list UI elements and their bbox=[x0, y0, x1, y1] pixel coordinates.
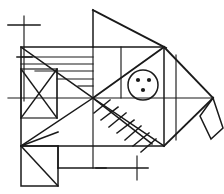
hatched-spine bbox=[93, 98, 156, 152]
dorsal-fin-diagonal-edge bbox=[93, 10, 166, 48]
lower-fin-box bbox=[21, 146, 58, 186]
eye-dot-left bbox=[136, 78, 140, 82]
spine-hatch-marks bbox=[94, 100, 156, 152]
pectoral-fin-box bbox=[58, 146, 106, 168]
eye-dot-bottom bbox=[141, 88, 145, 92]
fish-line-drawing bbox=[0, 0, 224, 194]
lower-fin-box-diagonal bbox=[21, 146, 58, 186]
spine-hatch-1 bbox=[94, 100, 110, 113]
x-filled-box bbox=[21, 69, 57, 118]
tail-lower-edge bbox=[164, 98, 213, 146]
spine-hatch-4 bbox=[117, 120, 134, 133]
eye-dot-right bbox=[147, 78, 151, 82]
figure-container: Geometric line drawing of a fish Abstrac… bbox=[0, 0, 224, 194]
tail-tip-kite bbox=[200, 98, 223, 139]
tail-tip-outline bbox=[200, 98, 223, 139]
eye-group bbox=[128, 70, 158, 100]
dorsal-fin bbox=[93, 10, 166, 48]
tail-fin bbox=[164, 47, 213, 146]
bottom-cross-mark bbox=[96, 156, 148, 180]
tail-upper-edge bbox=[164, 47, 213, 98]
eye-circle bbox=[128, 70, 158, 100]
